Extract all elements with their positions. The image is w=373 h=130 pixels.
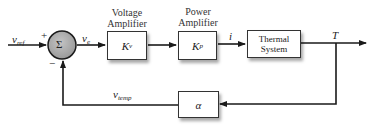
voltage-amplifier-title-line2: Amplifier — [104, 18, 150, 29]
voltage-amplifier-block: Kv — [107, 31, 147, 60]
thermal-system-block: Thermal System — [247, 30, 301, 58]
alpha-symbol: α — [196, 99, 202, 111]
feedback-signal-label: vtemp — [113, 88, 132, 102]
reference-input-label: vref — [12, 33, 24, 47]
plus-sign: + — [41, 29, 47, 41]
sensor-block: α — [178, 91, 219, 118]
power-amplifier-title-line1: Power — [175, 6, 221, 17]
thermal-system-line2: System — [261, 44, 288, 54]
minus-sign: − — [49, 57, 55, 69]
summing-symbol: Σ — [56, 38, 62, 50]
voltage-amplifier-title-line1: Voltage — [104, 7, 150, 18]
feedback-subscript: temp — [118, 94, 132, 102]
power-amplifier-title: Power Amplifier — [175, 6, 221, 28]
power-amplifier-title-line2: Amplifier — [175, 17, 221, 28]
error-signal-label: ve — [82, 32, 90, 46]
kv-subscript: v — [129, 42, 132, 50]
thermal-system-line1: Thermal — [259, 34, 290, 44]
power-amplifier-block: Kp — [178, 31, 217, 60]
error-subscript: e — [87, 38, 90, 46]
output-signal-label: T — [332, 29, 338, 41]
current-signal-label: i — [229, 30, 232, 42]
voltage-amplifier-title: Voltage Amplifier — [104, 7, 150, 29]
kp-subscript: p — [199, 42, 203, 50]
ref-subscript: ref — [17, 39, 25, 47]
kv-symbol: K — [122, 40, 129, 52]
